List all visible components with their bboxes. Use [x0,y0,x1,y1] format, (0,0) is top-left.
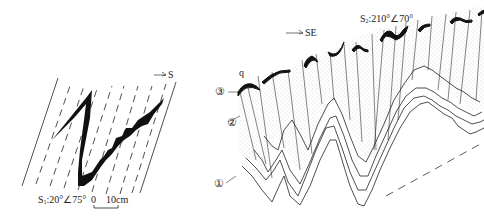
diagram-canvas [0,0,484,219]
arrow-icon [286,30,303,34]
figure: S S1:20°∠75° 0 10cm SE S2:210°∠70° q ③ ②… [0,0,484,219]
cleavage-line [22,78,58,186]
cleavage-line [140,82,176,193]
leader-lines [226,92,240,183]
layer-label-2: ② [227,117,237,128]
layer-label-3: ③ [215,86,225,97]
attitude-value: :210°∠70° [369,13,414,24]
arrow-icon [154,72,166,76]
dashed-reference-line [386,142,484,196]
vein-label-q: q [239,68,244,78]
attitude-label-left: S1:20°∠75° [38,195,86,205]
right-fold-diagram [226,6,484,206]
layer-label-1: ① [214,178,224,189]
left-fold-diagram [22,78,176,194]
scale-bar [94,205,118,208]
scale-length-label: 10cm [106,195,128,205]
direction-label-right: SE [305,28,317,38]
attitude-value: :20°∠75° [47,194,87,205]
attitude-label-right: S2:210°∠70° [360,14,413,24]
scale-zero-label: 0 [91,195,96,205]
direction-label-left: S [168,70,174,80]
